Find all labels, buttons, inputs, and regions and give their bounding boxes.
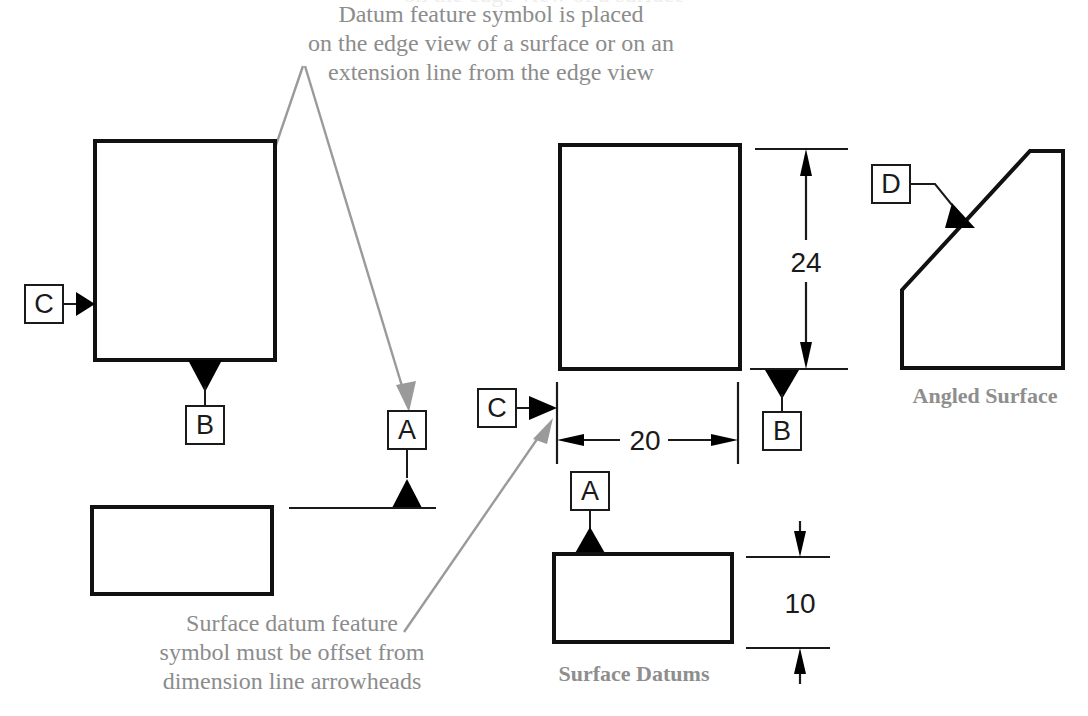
offset-note-line-2: symbol must be offset from — [160, 639, 425, 665]
datum-letter-center-b: B — [773, 416, 791, 446]
surface-datums-label: Surface Datums — [559, 661, 710, 686]
dimension-value-10: 10 — [784, 588, 815, 619]
datum-letter-center-c: C — [487, 393, 507, 423]
datum-letter-center-a: A — [581, 476, 599, 506]
datum-placement-note-line-2: on the edge view of a surface or on an — [308, 30, 674, 56]
datum-letter-left-a: A — [398, 415, 416, 445]
dimension-value-20: 20 — [629, 425, 660, 456]
dimension-value-24: 24 — [790, 247, 821, 278]
offset-note: Surface datum feature symbol must be off… — [160, 610, 425, 694]
datum-placement-note-line-3: extension line from the edge view — [328, 59, 655, 85]
offset-note-line-1: Surface datum feature — [186, 610, 398, 636]
corner-artifact: · — [1062, 662, 1066, 674]
center-lower-rectangle — [554, 554, 732, 642]
datum-placement-note: Datum feature symbol is placed on the ed… — [308, 1, 674, 85]
datum-letter-left-c: C — [34, 289, 54, 319]
angled-surface-label: Angled Surface — [913, 383, 1058, 408]
offset-note-line-3: dimension line arrowheads — [163, 668, 422, 694]
datum-letter-left-b: B — [196, 410, 214, 440]
datum-letter-right-d: D — [881, 169, 901, 199]
left-part-rectangle — [95, 141, 275, 360]
center-upper-rectangle — [560, 145, 740, 369]
left-lower-rectangle — [92, 507, 272, 594]
datum-placement-note-line-1: Datum feature symbol is placed — [338, 1, 643, 27]
drawing-canvas: on the edge view of a surface Datum feat… — [0, 0, 1088, 716]
